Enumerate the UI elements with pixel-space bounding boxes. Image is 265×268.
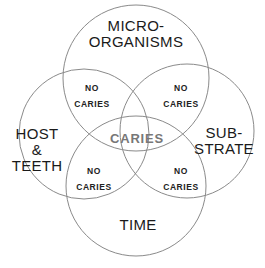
label-microorganisms: MICRO- ORGANISMS [89, 18, 183, 50]
label-no-caries-host-time: NO CARIES [76, 163, 112, 195]
label-substrate: SUB- STRATE [194, 125, 254, 157]
label-caries-center: CARIES [110, 132, 164, 146]
label-time: TIME [119, 217, 156, 233]
label-host-teeth: HOST & TEETH [12, 126, 63, 173]
label-no-caries-micro-host: NO CARIES [74, 80, 110, 112]
label-no-caries-substrate-time: NO CARIES [163, 163, 199, 195]
label-no-caries-micro-substrate: NO CARIES [163, 80, 199, 112]
